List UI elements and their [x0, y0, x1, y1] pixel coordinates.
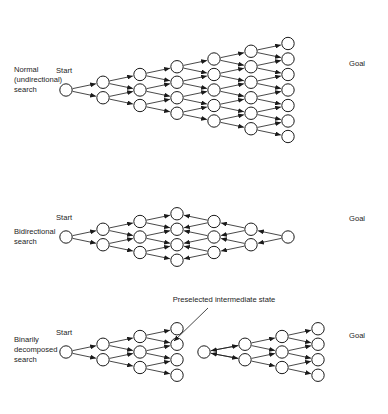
panel-binarily-label-line-2: decomposed — [14, 345, 57, 354]
graph-node — [171, 338, 183, 350]
graph-node — [208, 231, 220, 243]
graph-node — [134, 84, 146, 96]
goal-column-node — [312, 338, 324, 350]
graph-node — [171, 223, 183, 235]
graph-node — [282, 84, 294, 96]
graph-node — [134, 246, 146, 258]
graph-node — [208, 246, 220, 258]
graph-node — [134, 231, 146, 243]
panel-binarily-goal-label: Goal — [349, 331, 365, 340]
graph-node — [245, 223, 257, 235]
panel-bidirectional-goal-label: Goal — [349, 214, 365, 223]
goal-column-node — [312, 323, 324, 335]
graph-node — [134, 215, 146, 227]
panel-binarily-start-label: Start — [56, 328, 73, 337]
panel-binarily-label-line-3: search — [14, 355, 37, 364]
graph-node — [276, 346, 288, 358]
graph-node — [208, 84, 220, 96]
graph-node — [171, 323, 183, 335]
graph-node — [282, 115, 294, 127]
goal-node — [282, 231, 294, 243]
graph-node — [97, 223, 109, 235]
graph-node — [208, 115, 220, 127]
goal-column-node — [312, 369, 324, 381]
graph-node — [276, 330, 288, 342]
graph-node — [239, 354, 251, 366]
graph-node — [245, 61, 257, 73]
start-node — [60, 346, 72, 358]
graph-node — [97, 239, 109, 251]
graph-node — [97, 354, 109, 366]
goal-column-node — [312, 354, 324, 366]
graph-node — [282, 68, 294, 80]
graph-node — [282, 53, 294, 65]
graph-node — [171, 354, 183, 366]
graph-node — [171, 76, 183, 88]
panel-normal-label-line-2: (undirectional) — [14, 75, 63, 84]
graph-node — [97, 76, 109, 88]
panel-bidirectional-label-line-1: Bidirectional — [14, 227, 56, 236]
graph-node — [171, 239, 183, 251]
panel-bidirectional-start-label: Start — [56, 213, 73, 222]
graph-node — [134, 68, 146, 80]
search-diagram-figure: Normal (undirectional) search Start Goal… — [0, 0, 388, 414]
graph-node — [171, 208, 183, 220]
preselected-state-annotation-label: Preselected intermediate state — [173, 295, 276, 304]
panel-normal-label-line-3: search — [14, 85, 37, 94]
graph-node — [245, 107, 257, 119]
graph-node — [245, 76, 257, 88]
graph-node — [208, 99, 220, 111]
graph-node — [245, 123, 257, 135]
graph-node — [97, 338, 109, 350]
graph-node — [208, 68, 220, 80]
preselected-intermediate-state-node — [198, 346, 210, 358]
graph-node — [171, 107, 183, 119]
graph-node — [134, 346, 146, 358]
graph-node — [239, 338, 251, 350]
graph-node — [276, 361, 288, 373]
graph-node — [171, 254, 183, 266]
graph-node — [245, 92, 257, 104]
graph-node — [245, 239, 257, 251]
panel-normal-label-line-1: Normal — [14, 65, 39, 74]
graph-node — [97, 92, 109, 104]
panel-normal-goal-label: Goal — [349, 59, 365, 68]
graph-node — [134, 361, 146, 373]
graph-node — [208, 215, 220, 227]
graph-node — [171, 369, 183, 381]
graph-node — [282, 130, 294, 142]
graph-node — [134, 99, 146, 111]
graph-node — [245, 45, 257, 57]
graph-node — [171, 61, 183, 73]
graph-node — [282, 99, 294, 111]
figure-background — [0, 0, 388, 414]
panel-normal-start-label: Start — [56, 66, 73, 75]
start-node — [60, 231, 72, 243]
graph-node — [171, 92, 183, 104]
graph-node — [134, 330, 146, 342]
panel-bidirectional-label-line-2: search — [14, 237, 37, 246]
graph-node — [282, 37, 294, 49]
panel-binarily-label-line-1: Binarily — [14, 335, 39, 344]
start-node — [60, 84, 72, 96]
graph-node — [208, 53, 220, 65]
